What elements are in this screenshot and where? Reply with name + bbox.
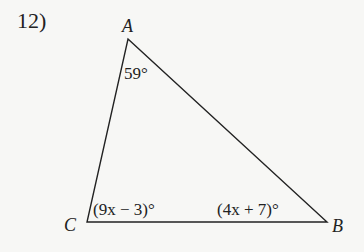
vertex-label-a: A [122, 16, 133, 37]
vertex-label-b: B [332, 216, 343, 237]
angle-b-label: (4x + 7)° [217, 200, 279, 220]
angle-c-label: (9x − 3)° [93, 200, 155, 220]
triangle-diagram [0, 0, 364, 252]
vertex-label-c: C [64, 215, 76, 236]
triangle-abc [87, 39, 327, 222]
angle-a-label: 59° [124, 64, 148, 84]
